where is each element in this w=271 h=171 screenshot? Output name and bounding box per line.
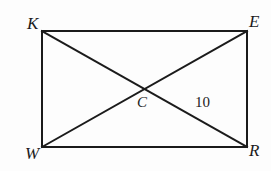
vertex-label-k: K <box>27 15 38 32</box>
vertex-label-w: W <box>25 145 39 162</box>
intersection-label-c: C <box>137 95 147 110</box>
geometry-canvas <box>0 0 271 171</box>
geometry-figure: K E W R C 10 <box>0 0 271 171</box>
vertex-label-e: E <box>249 13 259 30</box>
segment-measure-label: 10 <box>195 95 210 110</box>
vertex-label-r: R <box>249 142 259 159</box>
